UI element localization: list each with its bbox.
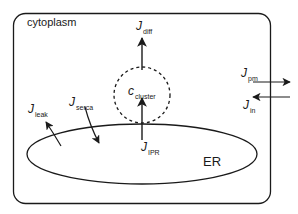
j-diff-symbol: J bbox=[136, 19, 142, 33]
j-leak-symbol: J bbox=[28, 102, 34, 116]
j-pm-symbol: J bbox=[241, 66, 247, 80]
j-serca-subscript: serca bbox=[76, 104, 93, 111]
j-leak-subscript: leak bbox=[35, 111, 48, 118]
j-ipr-symbol: J bbox=[141, 140, 147, 154]
j-in-label: Jin bbox=[243, 99, 255, 111]
cluster-subscript: cluster bbox=[135, 93, 156, 100]
j-leak-label: Jleak bbox=[28, 103, 48, 115]
j-pm-label: Jpm bbox=[241, 67, 258, 79]
j-in-symbol: J bbox=[243, 98, 249, 112]
cluster-concentration-label: ccluster bbox=[128, 85, 156, 97]
j-serca-arrow-icon bbox=[85, 107, 99, 143]
er-label: ER bbox=[203, 155, 221, 168]
j-leak-arrow-icon bbox=[46, 122, 61, 146]
j-ipr-label: JIPR bbox=[141, 141, 160, 153]
j-serca-symbol: J bbox=[69, 95, 75, 109]
j-diff-label: Jdiff bbox=[136, 20, 152, 32]
j-in-subscript: in bbox=[250, 107, 255, 114]
j-diff-subscript: diff bbox=[143, 28, 152, 35]
j-ipr-subscript: IPR bbox=[148, 149, 160, 156]
cytoplasm-label: cytoplasm bbox=[27, 17, 77, 28]
j-serca-label: Jserca bbox=[69, 96, 93, 108]
cluster-symbol: c bbox=[128, 84, 134, 98]
j-pm-subscript: pm bbox=[248, 75, 258, 82]
